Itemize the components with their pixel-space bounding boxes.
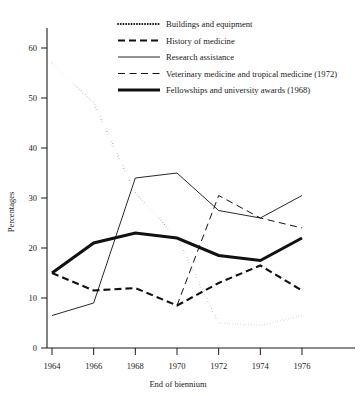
y-tick-label: 0 [33,343,37,353]
legend-label-4: Veterinary medicine and tropical medicin… [166,69,337,79]
series-line-5 [52,233,302,273]
legend-label-2: History of medicine [166,36,235,46]
x-tick-label: 1968 [127,361,144,371]
chart-legend: Buildings and equipmentHistory of medici… [118,19,337,95]
x-axis-title: End of biennium [149,379,207,389]
y-tick-label: 40 [29,143,38,153]
chart-canvas: 0102030405060 19641966196819701972197419… [0,0,361,396]
series-line-1 [52,63,302,326]
legend-label-5: Fellowships and university awards (1968) [166,85,310,95]
legend-label-3: Research assistance [166,52,234,62]
y-axis-title: Percentages [6,192,16,233]
x-tick-label: 1966 [85,361,102,371]
legend-label-1: Buildings and equipment [166,19,253,29]
line-chart: 0102030405060 19641966196819701972197419… [0,0,361,396]
x-tick-label: 1974 [252,361,270,371]
y-tick-label: 60 [29,43,38,53]
x-axis-ticks: 1964196619681970197219741976 [44,348,311,371]
y-tick-label: 30 [29,193,38,203]
data-series-group [52,63,302,326]
x-tick-label: 1964 [44,361,62,371]
y-axis-ticks: 0102030405060 [29,43,48,353]
y-tick-label: 20 [29,243,38,253]
x-tick-label: 1972 [210,361,227,371]
y-tick-label: 10 [29,293,38,303]
x-tick-label: 1970 [169,361,186,371]
y-tick-label: 50 [29,93,38,103]
x-tick-label: 1976 [294,361,311,371]
series-line-4 [177,196,302,306]
series-line-2 [52,266,302,306]
